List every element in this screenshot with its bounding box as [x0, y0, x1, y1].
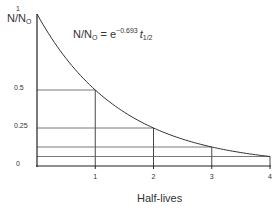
- decay-formula: N/NO = e−0.693t1/2: [73, 27, 152, 41]
- x-tick-label: 4: [268, 173, 272, 180]
- y-tick-label: 0.5: [14, 84, 24, 91]
- y-axis-label: N/NO: [7, 12, 31, 25]
- x-tick-label: 3: [210, 173, 214, 180]
- y-tick-label: 1: [16, 5, 20, 12]
- x-axis-label: Half-lives: [137, 192, 182, 204]
- y-tick-label: 0.25: [14, 122, 28, 129]
- x-tick-label: 1: [93, 173, 97, 180]
- y-tick-label: 0: [16, 160, 20, 167]
- x-tick-label: 2: [152, 173, 156, 180]
